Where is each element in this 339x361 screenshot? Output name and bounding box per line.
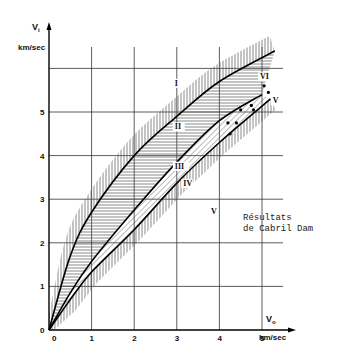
region-label: VI — [260, 72, 269, 81]
annotation-line-2: de Cabril Dam — [243, 224, 313, 234]
region-label: V — [211, 207, 217, 216]
y-tick-label: 5 — [40, 108, 45, 117]
y-tick-label: 0 — [40, 326, 45, 335]
y-tick-label: 1 — [40, 282, 45, 291]
region-label: IV — [183, 179, 192, 188]
data-point — [226, 121, 229, 124]
data-point — [250, 104, 253, 107]
y-axis-arrow-icon — [47, 22, 52, 30]
x-axis-symbol: Vo — [266, 314, 276, 325]
data-point — [228, 132, 231, 135]
data-point — [267, 91, 270, 94]
x-tick-label: 3 — [175, 334, 180, 343]
y-axis-unit: km/sec — [18, 43, 46, 52]
y-axis-symbol: Vi — [32, 22, 40, 33]
hatched-bands — [49, 36, 276, 330]
y-tick-label: 2 — [40, 239, 45, 248]
data-point — [239, 108, 242, 111]
x-axis-unit: km/sec — [259, 333, 287, 342]
y-tick-label: 3 — [40, 195, 45, 204]
y-tick-label: 4 — [40, 152, 45, 161]
data-point — [252, 108, 255, 111]
region-label: III — [175, 162, 184, 171]
region-label: I — [175, 79, 178, 88]
annotation-line-1: Résultats — [243, 213, 292, 223]
x-axis-arrow-icon — [288, 328, 296, 333]
region-label: V — [273, 96, 279, 105]
data-point — [235, 121, 238, 124]
x-tick-label: 0 — [52, 334, 57, 343]
velocity-chart: 012345012345 Vi km/sec Vo km/sec IIIIIII… — [0, 0, 339, 361]
x-tick-label: 1 — [90, 334, 95, 343]
x-tick-label: 4 — [217, 334, 222, 343]
region-label: II — [175, 122, 181, 131]
data-point — [263, 84, 266, 87]
x-tick-label: 2 — [132, 334, 137, 343]
